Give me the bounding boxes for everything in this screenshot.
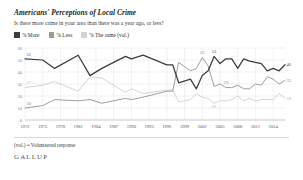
x-axis-tick-label: 1996	[162, 124, 172, 129]
y-axis-tick-label: 0	[20, 118, 23, 123]
data-point-label: 27	[27, 80, 32, 85]
y-axis-tick-label: 50	[17, 58, 22, 63]
legend-item-more[interactable]: % More	[14, 32, 40, 38]
page-title: Americans' Perceptions of Local Crime	[14, 8, 295, 17]
legend-item-same[interactable]: % The same (vol.)	[81, 32, 129, 38]
x-axis-tick-label: 2011	[251, 124, 261, 129]
series-line-2	[25, 77, 285, 103]
x-axis-tick-label: 1972	[20, 124, 30, 129]
data-point-label: 52	[200, 50, 205, 55]
brand-wordmark: GALLUP	[14, 153, 295, 161]
legend-swatch-same-icon	[81, 32, 87, 38]
chart-legend: % More % Less % The same (vol.)	[14, 31, 295, 39]
x-axis-tick-label: 1981	[74, 124, 84, 129]
x-axis-tick-label: 1975	[38, 124, 48, 129]
x-axis-tick-label: 2008	[233, 124, 243, 129]
y-axis-tick-label: 40	[17, 70, 22, 75]
data-point-label: 10	[27, 101, 32, 106]
x-axis-tick-label: 1978	[56, 124, 66, 129]
x-axis-tick-label: 1990	[127, 124, 137, 129]
x-axis-tick-label: 2002	[198, 124, 208, 129]
y-axis-tick-label: 60	[17, 46, 22, 51]
chart-subtitle: Is there more crime in your area than th…	[14, 20, 295, 26]
x-axis-tick-label: 2014	[269, 124, 279, 129]
x-axis-tick-label: 1987	[109, 124, 119, 129]
x-axis-tick-label: 1993	[144, 124, 154, 129]
data-point-label: 18	[287, 96, 292, 101]
data-point-label: 29	[224, 80, 229, 85]
legend-label-less: % Less	[57, 32, 73, 38]
footer-divider	[14, 137, 289, 138]
data-point-label: 33	[287, 78, 292, 83]
x-axis-tick-label: 1999	[180, 124, 190, 129]
chart-footnote: (vol.) = Volunteered response	[14, 142, 295, 148]
line-chart: 0102030405060197219751978198119841987199…	[8, 42, 295, 134]
legend-swatch-less-icon	[49, 32, 55, 38]
data-point-label: 46	[287, 62, 292, 67]
data-point-label: 53	[212, 49, 217, 54]
y-axis-tick-label: 20	[17, 94, 22, 99]
series-line-1	[25, 58, 285, 108]
legend-swatch-more-icon	[14, 32, 20, 38]
legend-label-more: % More	[22, 32, 40, 38]
y-axis-tick-label: 10	[17, 106, 22, 111]
y-axis-tick-label: 30	[17, 82, 22, 87]
chart-sheet: Americans' Perceptions of Local Crime Is…	[0, 0, 303, 180]
chart-plot-area: 0102030405060197219751978198119841987199…	[8, 42, 295, 134]
data-point-label: 51	[27, 52, 32, 57]
data-point-label: 16	[212, 104, 217, 109]
legend-label-same: % The same (vol.)	[89, 32, 129, 38]
x-axis-tick-label: 2005	[215, 124, 225, 129]
x-axis-tick-label: 1984	[91, 124, 101, 129]
legend-item-less[interactable]: % Less	[49, 32, 73, 38]
